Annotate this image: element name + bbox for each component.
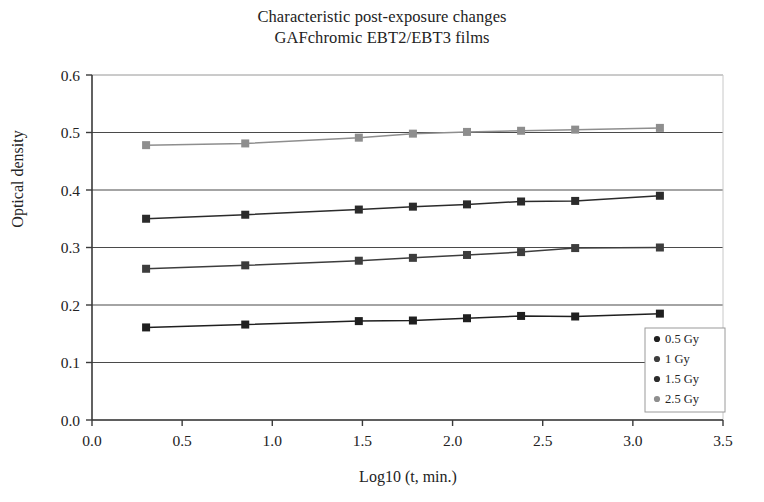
data-point-marker [571, 313, 579, 321]
data-point-marker [409, 203, 417, 211]
data-point-marker [656, 192, 664, 200]
axis-ticks: 0.00.10.20.30.40.50.60.00.51.01.52.02.53… [61, 67, 733, 450]
series-line [146, 248, 660, 269]
data-point-marker [517, 198, 525, 206]
x-tick-label: 2.0 [443, 432, 463, 449]
y-tick-label: 0.4 [61, 182, 81, 199]
data-point-marker [409, 130, 417, 138]
x-tick-label: 0.5 [172, 432, 192, 449]
data-point-marker [355, 206, 363, 214]
data-point-marker [355, 257, 363, 265]
chart-legend: 0.5 Gy1 Gy1.5 Gy2.5 Gy [645, 328, 725, 412]
x-tick-label: 3.0 [623, 432, 643, 449]
legend-entry-label: 1.5 Gy [665, 372, 700, 386]
legend-marker-dot [654, 376, 660, 382]
plot-area: 0.00.10.20.30.40.50.60.00.51.01.52.02.53… [0, 0, 764, 502]
data-point-marker [571, 126, 579, 134]
data-point-marker [142, 215, 150, 223]
y-tick-label: 0.6 [61, 67, 81, 84]
legend-marker-dot [654, 336, 660, 342]
y-tick-label: 0.2 [61, 297, 80, 314]
x-tick-label: 3.5 [713, 432, 733, 449]
legend-marker-dot [654, 356, 660, 362]
data-point-marker [241, 261, 249, 269]
data-point-marker [355, 317, 363, 325]
chart-figure: Characteristic post-exposure changes GAF… [0, 0, 764, 502]
data-point-marker [571, 244, 579, 252]
data-point-marker [463, 128, 471, 136]
data-point-marker [463, 251, 471, 259]
legend-entry-label: 0.5 Gy [665, 332, 700, 346]
data-point-marker [463, 200, 471, 208]
data-series-layer [142, 124, 664, 332]
data-series [142, 192, 664, 223]
data-point-marker [656, 124, 664, 132]
data-point-marker [142, 265, 150, 273]
legend-entry-label: 1 Gy [665, 352, 690, 366]
legend-marker-dot [654, 396, 660, 402]
data-point-marker [409, 317, 417, 325]
data-point-marker [656, 244, 664, 252]
data-point-marker [355, 134, 363, 142]
data-series [142, 310, 664, 332]
x-tick-label: 2.5 [533, 432, 553, 449]
data-point-marker [241, 321, 249, 329]
y-tick-label: 0.5 [61, 124, 81, 141]
data-point-marker [241, 139, 249, 147]
data-point-marker [241, 211, 249, 219]
x-tick-label: 1.5 [353, 432, 373, 449]
data-point-marker [517, 127, 525, 135]
series-line [146, 128, 660, 145]
data-point-marker [517, 248, 525, 256]
data-point-marker [517, 312, 525, 320]
data-point-marker [571, 197, 579, 205]
legend-entry-label: 2.5 Gy [665, 392, 700, 406]
y-tick-label: 0.3 [61, 239, 81, 256]
x-tick-label: 0.0 [82, 432, 102, 449]
data-series [142, 124, 664, 149]
data-point-marker [656, 310, 664, 318]
y-tick-label: 0.0 [61, 412, 81, 429]
x-tick-label: 1.0 [263, 432, 283, 449]
y-tick-label: 0.1 [61, 354, 80, 371]
data-point-marker [142, 141, 150, 149]
data-point-marker [409, 254, 417, 262]
series-line [146, 314, 660, 328]
data-point-marker [463, 314, 471, 322]
data-point-marker [142, 323, 150, 331]
series-line [146, 196, 660, 219]
